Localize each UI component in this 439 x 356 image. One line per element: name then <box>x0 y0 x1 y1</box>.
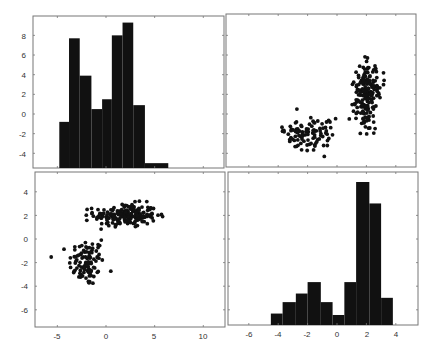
bottom-right-x-axis: -6 -4 -2 0 2 4 <box>245 330 398 339</box>
scatter-point <box>347 117 351 121</box>
scatter-point <box>296 138 300 142</box>
scatter-point <box>113 223 117 227</box>
scatter-point <box>369 111 373 115</box>
scatter-point <box>108 213 112 217</box>
scatter-point <box>309 116 313 120</box>
scatter-point <box>112 214 116 218</box>
histogram-bar <box>102 99 112 168</box>
scatter-point <box>92 214 96 218</box>
scatter-point <box>351 82 355 86</box>
histogram-bar <box>123 23 134 168</box>
scatter-point <box>329 126 333 130</box>
histogram-bar <box>69 38 80 168</box>
scatter-point <box>132 208 136 212</box>
scatter-point <box>367 115 371 119</box>
scatter-point <box>286 132 290 136</box>
histogram-bar <box>133 105 145 168</box>
scatter-point <box>368 82 372 86</box>
scatter-point <box>363 90 367 94</box>
scatter-point <box>77 253 81 257</box>
scatter-point <box>372 120 376 124</box>
y-tick-label: 2 <box>24 212 29 221</box>
scatter-point <box>299 142 303 146</box>
y-tick-label: 0 <box>24 235 29 244</box>
scatter-point <box>360 103 364 107</box>
scatter-point <box>322 144 326 148</box>
scatter-point <box>300 125 304 129</box>
scatter-point <box>372 68 376 72</box>
scatter-point <box>90 211 94 215</box>
scatter-point <box>95 215 99 219</box>
scatter-point <box>97 256 101 260</box>
scatter-point <box>94 249 98 253</box>
scatter-point <box>134 225 138 229</box>
scatter-point <box>314 129 318 133</box>
scatter-point <box>87 281 91 285</box>
scatter-point <box>140 220 144 224</box>
scatter-point <box>318 129 322 133</box>
scatter-point <box>295 107 299 111</box>
scatter-point <box>94 259 98 263</box>
scatter-point <box>300 134 304 138</box>
scatter-point <box>364 104 368 108</box>
y-tick-label: 4 <box>24 188 29 197</box>
scatter-point <box>152 207 156 211</box>
scatter-point <box>382 83 386 87</box>
scatter-point <box>75 266 79 270</box>
scatter-point <box>300 148 304 152</box>
scatter-point <box>86 265 90 269</box>
y-tick-label: 4 <box>22 71 27 80</box>
scatter-point <box>139 213 143 217</box>
scatter-point <box>324 131 328 135</box>
scatter-point <box>130 203 134 207</box>
scatter-point <box>140 205 144 209</box>
scatter-point <box>62 247 66 251</box>
scatter-point <box>91 242 95 246</box>
scatter-point <box>301 130 305 134</box>
scatter-point <box>78 271 82 275</box>
scatter-point <box>290 127 294 131</box>
scatter-point <box>138 199 142 203</box>
scatter-point <box>363 55 367 59</box>
scatter-point <box>289 136 293 140</box>
scatter-point <box>334 117 338 121</box>
scatter-point <box>281 129 285 133</box>
scatter-point <box>326 139 330 143</box>
scatter-point <box>150 212 154 216</box>
scatter-point <box>102 211 106 215</box>
scatter-point <box>316 119 320 123</box>
scatter-point <box>105 213 109 217</box>
scatter-point <box>305 149 309 153</box>
scatter-point <box>371 114 375 118</box>
scatter-point <box>366 97 370 101</box>
histogram-bar <box>145 163 168 168</box>
scatter-point <box>142 211 146 215</box>
x-tick-label: -6 <box>245 330 253 339</box>
scatter-point <box>357 83 361 87</box>
scatter-point <box>311 119 315 123</box>
top-left-y-axis: 8 6 4 2 0 -2 -4 <box>19 32 27 159</box>
scatter-point <box>156 213 160 217</box>
scatter-point <box>365 60 369 64</box>
scatter-point <box>364 81 368 85</box>
histogram-bar <box>112 35 123 168</box>
scatter-point <box>100 258 104 262</box>
scatter-point <box>98 244 102 248</box>
scatter-point <box>91 246 95 250</box>
histogram-bar <box>381 298 393 325</box>
scatter-point <box>119 212 123 216</box>
scatter-point <box>75 258 79 262</box>
scatter-point <box>358 64 362 68</box>
scatter-point <box>327 118 331 122</box>
y-tick-label: -2 <box>21 259 29 268</box>
scatter-point <box>145 200 149 204</box>
scatter-point <box>87 262 91 266</box>
scatter-point <box>353 103 357 107</box>
x-tick-label: -4 <box>274 330 282 339</box>
scatter-point <box>161 215 165 219</box>
panel-bottom-right <box>228 172 418 325</box>
scatter-point <box>125 218 129 222</box>
scatter-point <box>358 91 362 95</box>
x-tick-label: -5 <box>53 332 61 341</box>
y-tick-label: -4 <box>19 150 27 159</box>
